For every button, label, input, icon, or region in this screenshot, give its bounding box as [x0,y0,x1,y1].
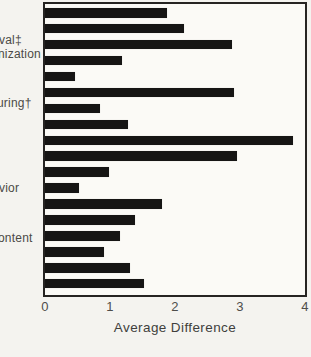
x-tick-label: 4 [301,299,309,314]
scanned-chart-page: val‡ nization uring† vior ontent 01234 A… [0,0,311,357]
bar [45,247,104,257]
x-tick-label: 1 [106,299,114,314]
bar [45,151,237,161]
bar [45,136,293,146]
bar [45,263,130,273]
bar [45,56,122,66]
bar [45,72,75,82]
bar [45,40,232,50]
x-tick-label: 0 [41,299,49,314]
x-tick-label: 3 [236,299,244,314]
bar [45,120,128,130]
bars-layer [45,4,305,295]
bar [45,183,79,193]
bar [45,24,184,34]
bar [45,104,100,114]
category-label-fragment: ontent [0,231,33,245]
x-axis-title: Average Difference [45,320,305,335]
category-label-fragment: vior [0,181,19,195]
category-label-fragment: val‡ [0,33,22,47]
bar-chart-plot-area [43,2,307,297]
bar [45,279,144,289]
bar [45,167,109,177]
bar [45,199,162,209]
bar [45,88,234,98]
bar [45,8,167,18]
category-label-fragment: nization [0,47,41,61]
x-axis-ticks: 01234 [45,299,305,313]
bar [45,231,120,241]
bar [45,215,135,225]
category-label-fragment: uring† [0,96,32,110]
x-tick-label: 2 [171,299,179,314]
